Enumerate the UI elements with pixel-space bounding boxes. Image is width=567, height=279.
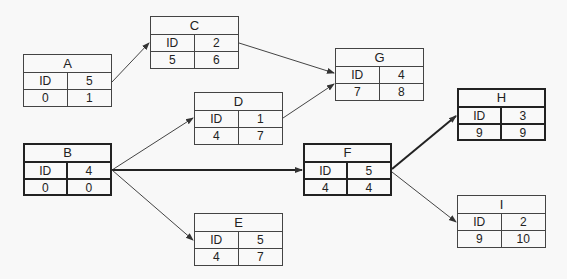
node-title: H: [459, 90, 544, 108]
node-id-label: ID: [24, 73, 68, 90]
node-start: 9: [458, 231, 502, 247]
node-id-label: ID: [458, 214, 502, 231]
node-finish: 0: [68, 180, 111, 196]
edge-d-g: [283, 84, 334, 118]
node-title: F: [305, 145, 390, 163]
node-finish: 7: [239, 128, 283, 144]
node-g: G ID 4 7 8: [335, 48, 424, 101]
node-duration: 4: [380, 67, 424, 84]
node-d: D ID 1 4 7: [194, 92, 283, 145]
node-id-label: ID: [195, 111, 239, 128]
node-id-label: ID: [305, 163, 348, 180]
node-title: I: [458, 196, 545, 214]
node-title: E: [195, 214, 282, 232]
node-id-label: ID: [336, 67, 380, 84]
edge-b-d: [112, 118, 193, 170]
edge-a-c: [112, 43, 149, 82]
node-title: G: [336, 49, 423, 67]
node-id-label: ID: [459, 108, 502, 125]
node-start: 9: [459, 125, 502, 141]
edge-b-e: [112, 170, 193, 240]
node-duration: 5: [348, 163, 391, 180]
node-finish: 8: [380, 84, 424, 100]
node-title: D: [195, 93, 282, 111]
node-duration: 5: [68, 73, 112, 90]
node-i: I ID 2 9 10: [457, 195, 546, 248]
node-title: A: [24, 55, 111, 73]
node-finish: 7: [239, 249, 283, 265]
node-duration: 2: [502, 214, 546, 231]
node-duration: 2: [195, 35, 239, 52]
node-start: 0: [25, 180, 68, 196]
node-start: 7: [336, 84, 380, 100]
node-duration: 4: [68, 163, 111, 180]
node-h: H ID 3 9 9: [457, 88, 546, 141]
node-a: A ID 5 0 1: [23, 54, 112, 107]
node-finish: 10: [502, 231, 546, 247]
node-duration: 1: [239, 111, 283, 128]
node-duration: 3: [502, 108, 545, 125]
node-b: B ID 4 0 0: [23, 143, 112, 196]
edge-f-i: [392, 172, 456, 222]
node-finish: 9: [502, 125, 545, 141]
node-c: C ID 2 5 6: [150, 16, 239, 69]
node-start: 0: [24, 90, 68, 106]
node-finish: 1: [68, 90, 112, 106]
edge-c-g: [239, 43, 334, 73]
node-id-label: ID: [25, 163, 68, 180]
node-id-label: ID: [151, 35, 195, 52]
node-start: 4: [195, 249, 239, 265]
node-title: C: [151, 17, 238, 35]
node-id-label: ID: [195, 232, 239, 249]
edge-f-h: [392, 116, 456, 169]
node-start: 4: [305, 180, 348, 196]
node-title: B: [25, 145, 110, 163]
node-start: 5: [151, 52, 195, 68]
node-finish: 6: [195, 52, 239, 68]
node-start: 4: [195, 128, 239, 144]
node-duration: 5: [239, 232, 283, 249]
node-finish: 4: [348, 180, 391, 196]
node-e: E ID 5 4 7: [194, 213, 283, 266]
node-f: F ID 5 4 4: [303, 143, 392, 196]
